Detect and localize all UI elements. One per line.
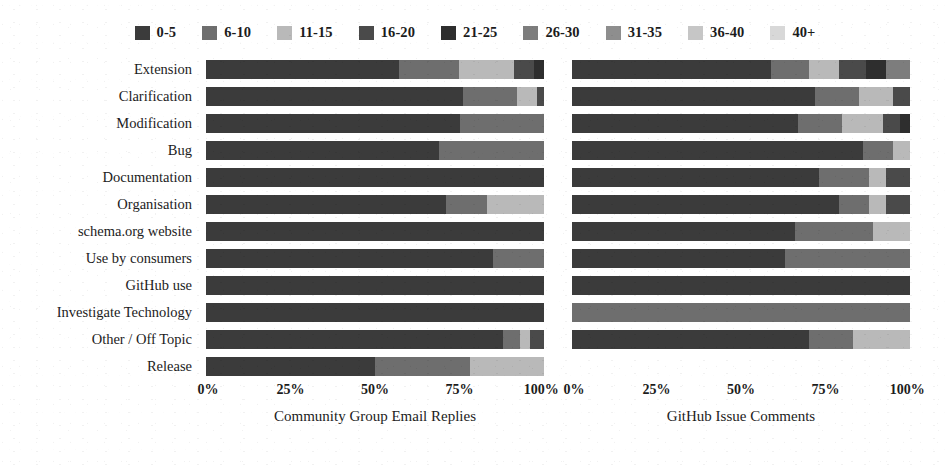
legend-item: 11-15	[277, 24, 333, 41]
bar-segment	[572, 60, 771, 79]
bar-row	[572, 110, 910, 137]
stacked-bar	[572, 330, 910, 349]
y-axis-label: Clarification	[119, 83, 192, 110]
y-axis-label: Use by consumers	[86, 245, 192, 272]
y-axis-label: Extension	[134, 56, 192, 83]
panel-title: GitHub Issue Comments	[572, 408, 910, 425]
legend-item: 21-25	[441, 24, 497, 41]
stacked-bar	[206, 195, 544, 214]
bar-segment	[460, 114, 545, 133]
bar-segment	[375, 357, 470, 376]
bar-segment	[520, 330, 530, 349]
bar-row	[572, 299, 910, 326]
bar-segment	[883, 114, 900, 133]
stacked-bar	[572, 60, 910, 79]
bar-segment	[572, 249, 785, 268]
y-axis-category-labels: ExtensionClarificationModificationBugDoc…	[0, 56, 198, 378]
bar-segment	[463, 87, 517, 106]
x-axis-tick-label: 0%	[198, 382, 219, 398]
y-axis-label: Investigate Technology	[57, 299, 192, 326]
y-axis-label: schema.org website	[78, 218, 192, 245]
bar-segment	[493, 249, 544, 268]
legend-item: 0-5	[135, 24, 177, 41]
stacked-bar	[572, 357, 910, 376]
bar-row	[572, 326, 910, 353]
bar-segment	[537, 87, 544, 106]
y-axis-label: Modification	[116, 110, 192, 137]
stacked-bar	[206, 249, 544, 268]
stacked-bar	[572, 141, 910, 160]
x-axis-tick-label: 25%	[643, 382, 671, 398]
bar-segment	[886, 195, 910, 214]
bar-segment	[893, 141, 910, 160]
bar-segment	[572, 141, 863, 160]
legend-item-label: 16-20	[381, 24, 415, 41]
stacked-bar	[206, 168, 544, 187]
stacked-bar	[572, 276, 910, 295]
x-axis-ticks: 0%25%50%75%100%	[206, 382, 544, 402]
bar-segment	[459, 60, 513, 79]
bar-row	[572, 353, 910, 380]
x-axis-tick-label: 50%	[361, 382, 389, 398]
panel-bars	[206, 56, 544, 378]
bar-segment	[869, 195, 886, 214]
stacked-bar	[206, 141, 544, 160]
y-axis-label: Other / Off Topic	[92, 326, 192, 353]
bar-segment	[206, 195, 446, 214]
bar-segment	[517, 87, 537, 106]
bar-row	[206, 272, 544, 299]
bar-segment	[514, 60, 534, 79]
bar-row	[572, 56, 910, 83]
y-axis-label: Documentation	[103, 164, 192, 191]
bar-row	[206, 137, 544, 164]
plot-area: ExtensionClarificationModificationBugDoc…	[0, 56, 950, 386]
legend-item-label: 21-25	[463, 24, 497, 41]
bar-segment	[809, 330, 853, 349]
legend-swatch-icon	[277, 26, 292, 40]
bar-segment	[572, 303, 910, 322]
bar-segment	[206, 276, 544, 295]
bar-row	[206, 56, 544, 83]
bar-segment	[795, 222, 873, 241]
legend-item-label: 11-15	[299, 24, 333, 41]
panel-bars	[572, 56, 910, 378]
legend-item: 31-35	[606, 24, 662, 41]
bar-segment	[399, 60, 460, 79]
bar-segment	[572, 222, 795, 241]
bar-segment	[886, 60, 910, 79]
bar-segment	[842, 114, 883, 133]
y-axis-label: Bug	[168, 137, 192, 164]
legend-item: 16-20	[359, 24, 415, 41]
x-axis-tick-label: 100%	[524, 382, 559, 398]
stacked-bar	[572, 249, 910, 268]
stacked-bar	[206, 330, 544, 349]
bar-row	[206, 218, 544, 245]
x-axis-tick-label: 25%	[277, 382, 305, 398]
stacked-bar-chart-figure: 0-56-1011-1516-2021-2526-3031-3536-4040+…	[0, 0, 950, 472]
bar-segment	[572, 114, 798, 133]
bar-segment	[206, 114, 460, 133]
bar-segment	[439, 141, 544, 160]
y-axis-label: Release	[147, 353, 192, 380]
bar-segment	[572, 330, 809, 349]
legend-item-label: 31-35	[628, 24, 662, 41]
legend-item-label: 0-5	[157, 24, 177, 41]
x-axis-tick-label: 50%	[727, 382, 755, 398]
bar-row	[206, 353, 544, 380]
panel-github-issue-comments: 0%25%50%75%100% GitHub Issue Comments	[572, 56, 910, 378]
stacked-bar	[206, 276, 544, 295]
legend-item-label: 26-30	[545, 24, 579, 41]
bar-segment	[853, 330, 910, 349]
panel-community-group-email-replies: 0%25%50%75%100% Community Group Email Re…	[206, 56, 544, 378]
bar-segment	[206, 168, 544, 187]
bar-segment	[886, 168, 910, 187]
bar-segment	[206, 330, 503, 349]
bar-segment	[785, 249, 910, 268]
legend-swatch-icon	[359, 26, 374, 40]
bar-row	[206, 83, 544, 110]
bar-segment	[470, 357, 544, 376]
bar-segment	[771, 60, 808, 79]
bar-row	[206, 299, 544, 326]
chart-legend: 0-56-1011-1516-2021-2526-3031-3536-4040+	[0, 24, 950, 41]
legend-swatch-icon	[202, 26, 217, 40]
